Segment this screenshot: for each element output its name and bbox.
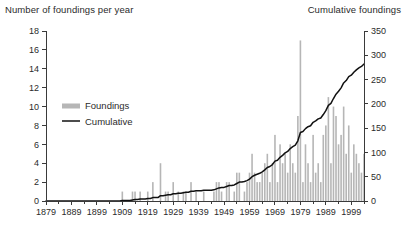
bar: [307, 163, 309, 201]
bar: [272, 163, 274, 201]
bar: [302, 182, 304, 201]
bar: [340, 135, 342, 201]
y-tick-label: 8: [34, 121, 39, 131]
x-tick-label: 1879: [36, 207, 56, 217]
x-tick-label: 1939: [189, 207, 209, 217]
bar: [361, 173, 363, 201]
bar: [310, 182, 312, 201]
bar: [345, 154, 347, 201]
bar: [267, 154, 269, 201]
bar: [282, 163, 284, 201]
bar: [295, 173, 297, 201]
x-tick-label: 1889: [61, 207, 81, 217]
bar: [213, 192, 215, 201]
bar: [236, 173, 238, 201]
chart-svg: 0246810121416180501001502002503003501879…: [0, 0, 407, 225]
bar: [333, 107, 335, 201]
bar: [350, 173, 352, 201]
bars-group: [122, 40, 365, 201]
y2-tick-label: 200: [371, 99, 386, 109]
bar: [226, 182, 228, 201]
y-tick-label: 14: [29, 64, 39, 74]
bar: [203, 192, 205, 201]
bar: [254, 173, 256, 201]
bar: [122, 192, 124, 201]
y2-tick-label: 150: [371, 123, 386, 133]
bar: [165, 192, 167, 201]
y2-tick-label: 350: [371, 26, 386, 36]
bar: [356, 154, 358, 201]
bar: [216, 182, 218, 201]
bar: [338, 144, 340, 201]
y-tick-label: 4: [34, 158, 39, 168]
bar: [315, 173, 317, 201]
bar: [325, 125, 327, 201]
x-tick-label: 1969: [265, 207, 285, 217]
bar: [348, 125, 350, 201]
bar: [358, 163, 360, 201]
bar: [305, 144, 307, 201]
bar: [300, 40, 302, 201]
x-tick-label: 1929: [163, 207, 183, 217]
x-tick-label: 1999: [341, 207, 361, 217]
bar: [261, 173, 263, 201]
legend-label-cumulative: Cumulative: [85, 116, 133, 127]
y2-tick-label: 50: [371, 172, 381, 182]
x-tick-label: 1989: [316, 207, 336, 217]
bar: [323, 135, 325, 201]
bar: [277, 182, 279, 201]
bar: [320, 182, 322, 201]
bar: [249, 173, 251, 201]
bar: [284, 154, 286, 201]
bar: [244, 192, 246, 201]
bar: [335, 116, 337, 201]
bar: [343, 107, 345, 201]
bar: [292, 163, 294, 201]
bar: [172, 182, 174, 201]
bar: [147, 192, 149, 201]
bar: [195, 192, 197, 201]
chart-container: Number of foundings per year Cumulative …: [0, 0, 407, 225]
bar: [274, 135, 276, 201]
bar: [353, 144, 355, 201]
bar: [218, 182, 220, 201]
bar: [239, 173, 241, 201]
bar: [328, 97, 330, 201]
y2-tick-label: 300: [371, 50, 386, 60]
x-tick-label: 1909: [112, 207, 132, 217]
y-tick-label: 10: [29, 102, 39, 112]
legend-label-foundings: Foundings: [85, 100, 130, 111]
x-tick-label: 1899: [87, 207, 107, 217]
bar: [246, 182, 248, 201]
x-tick-label: 1959: [240, 207, 260, 217]
bar: [279, 144, 281, 201]
y-tick-label: 6: [34, 140, 39, 150]
x-tick-label: 1919: [138, 207, 158, 217]
y2-tick-label: 0: [371, 196, 376, 206]
bar: [317, 163, 319, 201]
x-tick-label: 1979: [290, 207, 310, 217]
y-tick-label: 12: [29, 83, 39, 93]
y2-tick-label: 100: [371, 148, 386, 158]
bar: [312, 135, 314, 201]
y-tick-label: 16: [29, 45, 39, 55]
bar: [287, 173, 289, 201]
bar: [167, 192, 169, 201]
y2-tick-label: 250: [371, 75, 386, 85]
bar: [259, 182, 261, 201]
y-tick-label: 18: [29, 26, 39, 36]
y-tick-label: 0: [34, 196, 39, 206]
bar: [330, 163, 332, 201]
bar: [221, 192, 223, 201]
x-tick-label: 1949: [214, 207, 234, 217]
bar: [297, 116, 299, 201]
y-tick-label: 2: [34, 177, 39, 187]
legend-swatch-foundings: [62, 104, 80, 109]
bar: [233, 192, 235, 201]
bar: [256, 182, 258, 201]
bar: [289, 144, 291, 201]
bar: [269, 182, 271, 201]
